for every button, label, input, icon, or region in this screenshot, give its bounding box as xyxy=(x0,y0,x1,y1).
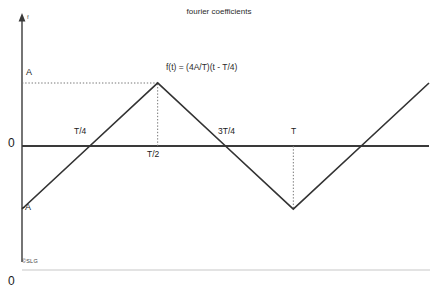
tick-label-period: T xyxy=(291,127,296,136)
y-axis xyxy=(19,13,26,262)
copyright-watermark: ©SLG xyxy=(22,259,38,265)
triangle-wave-plot xyxy=(0,0,438,292)
y-axis-label: f xyxy=(27,14,29,20)
origin-label: 0 xyxy=(8,137,15,149)
footer-origin-label: 0 xyxy=(8,275,15,287)
tick-label-half-period: T/2 xyxy=(147,150,159,159)
tick-label-quarter-period: T/4 xyxy=(74,127,86,136)
amplitude-negative-label: -A xyxy=(22,203,31,212)
amplitude-positive-label: A xyxy=(26,68,32,77)
page-title: fourier coefficients xyxy=(0,8,438,16)
equation-annotation: f(t) = (4A/T)(t - T/4) xyxy=(166,63,237,72)
fourier-coefficients-figure: fourier coefficients f(t) = (4A/T)(t - T… xyxy=(0,0,438,292)
tick-label-three-quarter-period: 3T/4 xyxy=(218,127,235,136)
